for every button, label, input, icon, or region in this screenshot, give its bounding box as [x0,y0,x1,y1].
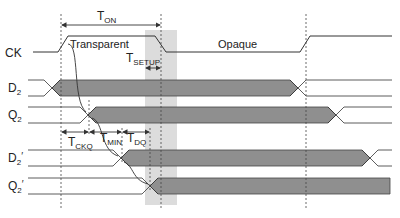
signal-label-d2: D2 [8,81,22,97]
tdq-label: TDQ [127,131,146,147]
transparent-label: Transparent [70,38,129,50]
d2-waveform [28,80,392,96]
q2-prime-waveform [28,178,390,194]
ck-to-q2-arrow [68,44,86,112]
signal-label-d2-prime: D2′ [8,151,23,167]
q2-waveform [28,107,392,123]
signal-label-q2-prime: Q2′ [8,179,24,195]
signal-label-q2: Q2 [8,108,22,124]
opaque-label: Opaque [218,38,257,50]
ton-label: TON [97,9,117,25]
signal-label-ck: CK [5,46,22,60]
tckq-label: TCKQ [68,135,93,151]
d2-prime-waveform [28,150,392,166]
tmin-label: TMIN [100,131,122,147]
timing-diagram: CK D2 Q2 D2′ Q2′ TON Transparent Opaque … [0,0,400,218]
